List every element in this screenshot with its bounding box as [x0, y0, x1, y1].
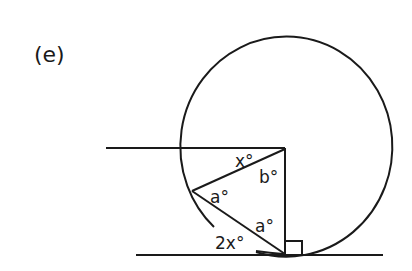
- part-label: (e): [34, 42, 65, 67]
- angle-label-b: b°: [259, 167, 278, 187]
- circle: [180, 37, 392, 257]
- right-angle-marker: [285, 241, 302, 255]
- angle-label-a-left: a°: [210, 187, 229, 207]
- angle-label-2x: 2x°: [215, 233, 244, 253]
- angle-label-a-right: a°: [255, 216, 274, 236]
- diagram-canvas: (e) x° b° a° a° 2x°: [0, 0, 412, 271]
- angle-label-x: x°: [235, 151, 254, 171]
- geometry-figure: (e) x° b° a° a° 2x°: [0, 0, 412, 271]
